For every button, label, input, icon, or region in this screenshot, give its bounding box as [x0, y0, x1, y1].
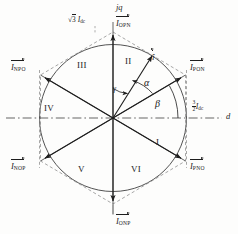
sector-label-I: I [156, 138, 159, 147]
gamma-angle-label: γ [113, 85, 116, 93]
sector-label-V: V [78, 165, 85, 174]
diagram-canvas [0, 0, 238, 234]
sector-label-IV: IV [44, 104, 54, 113]
vector-I-NOP [45, 118, 113, 158]
d-axis-label: d [226, 112, 230, 121]
vector-label-I-PNO: IPNO [190, 161, 205, 172]
sector-label-VI: VI [131, 165, 141, 174]
vector-label-I-NPO: INPO [11, 62, 26, 73]
vector-label-I-NOP: INOP [11, 161, 26, 172]
inscribed-circle-radius-label: 3 2 Idc [192, 100, 203, 112]
jq-axis-label: jq [116, 3, 123, 12]
space-vector-hexagon-figure: jq d √3 Idc 3 2 Idc IOPN IPON IPNO IONP … [0, 0, 238, 234]
reference-vector-label: î [152, 52, 155, 62]
vector-label-I-ONP: IONP [116, 216, 131, 227]
hexagon-vertex-magnitude-label: √3 Idc [68, 16, 85, 24]
vector-I-PNO [113, 118, 181, 158]
beta-angle-label: β [155, 99, 160, 109]
sector-label-II: II [125, 57, 132, 66]
alpha-angle-label: α [144, 78, 149, 88]
sector-label-III: III [77, 61, 87, 70]
beta-arc [169, 86, 178, 119]
vector-label-I-PON: IPON [190, 62, 205, 73]
vector-I-NPO [45, 78, 113, 118]
vector-label-I-OPN: IOPN [116, 18, 131, 29]
